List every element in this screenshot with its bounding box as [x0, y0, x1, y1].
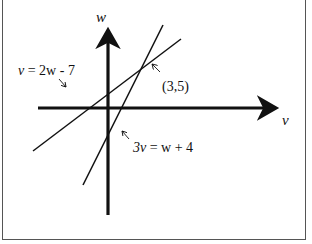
w-axis-label: w: [96, 10, 106, 25]
equation-lhs: v: [18, 63, 24, 78]
pointer-arrow-icon: [152, 64, 160, 72]
pointer-arrow-icon: [59, 79, 66, 87]
pointer-arrow-icon: [122, 131, 129, 139]
equation-lhs: 3v: [133, 140, 146, 155]
equation-label-line-2: 3v = w + 4: [133, 141, 193, 155]
equation-rhs: = w + 4: [150, 140, 193, 155]
intersection-label: (3,5): [162, 80, 189, 94]
equation-rhs: = 2w - 7: [28, 63, 75, 78]
v-axis-label: v: [282, 113, 289, 128]
coordinate-plane: [0, 0, 312, 244]
equation-label-line-1: v = 2w - 7: [18, 64, 75, 78]
